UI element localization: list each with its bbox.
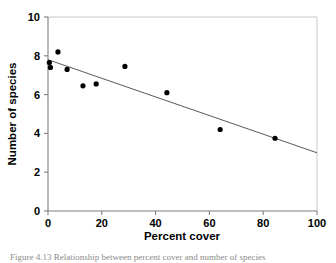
x-axis-ticks (48, 211, 317, 215)
x-axis-title: Percent cover (144, 230, 221, 242)
data-point (47, 60, 52, 65)
y-axis-title: Number of species (6, 63, 18, 166)
plot-area-border (48, 17, 317, 211)
data-point (164, 90, 169, 95)
data-point (64, 67, 69, 72)
x-tick-label: 20 (96, 217, 108, 229)
x-tick-label: 60 (203, 217, 215, 229)
data-point (55, 49, 60, 54)
x-tick-label: 0 (45, 217, 51, 229)
data-point (94, 81, 99, 86)
y-tick-label: 2 (34, 166, 40, 178)
y-tick-labels: 10 8 6 4 2 0 (28, 11, 41, 217)
y-tick-label: 6 (34, 89, 40, 101)
data-point (48, 65, 53, 70)
y-tick-label: 10 (28, 11, 40, 23)
y-tick-label: 0 (34, 205, 40, 217)
x-tick-label: 40 (149, 217, 161, 229)
data-point (122, 64, 127, 69)
x-tick-label: 100 (308, 217, 326, 229)
y-axis-ticks (44, 17, 48, 211)
data-point (218, 127, 223, 132)
x-tick-labels: 0 20 40 60 80 100 (45, 217, 326, 229)
y-tick-label: 8 (34, 50, 40, 62)
data-point (272, 136, 277, 141)
data-point (80, 83, 85, 88)
x-tick-label: 80 (257, 217, 269, 229)
figure-caption: Figure 4.13 Relationship between percent… (10, 252, 330, 263)
y-tick-label: 4 (34, 127, 41, 139)
